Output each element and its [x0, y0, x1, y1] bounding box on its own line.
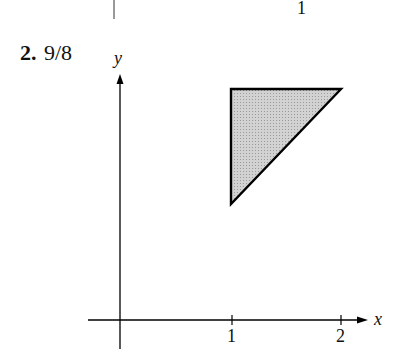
x-tick-label-1: 1 [227, 326, 236, 347]
previous-figure-tick-label: 1 [297, 0, 306, 19]
x-tick-label-2: 2 [336, 326, 345, 347]
x-axis-arrow-icon [357, 317, 368, 324]
problem-number: 2. [20, 40, 37, 66]
shaded-triangle-region [231, 89, 341, 204]
problem-answer: 9/8 [44, 40, 72, 66]
x-axis-label: x [374, 309, 382, 330]
y-axis [117, 74, 124, 349]
y-axis-arrow-icon [117, 74, 124, 84]
x-axis [88, 315, 368, 325]
y-axis-label: y [114, 48, 122, 69]
